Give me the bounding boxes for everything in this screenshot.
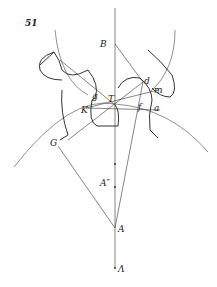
label-a: a <box>154 103 159 113</box>
lower-left-tooth <box>60 90 68 140</box>
line-left-T <box>60 60 115 105</box>
label-B: B <box>99 39 107 49</box>
upper-left-tooth-edge <box>39 52 62 80</box>
label-T: T <box>108 94 115 104</box>
point-lambda <box>114 267 116 269</box>
label-d: d <box>144 76 150 86</box>
point-2 <box>114 186 116 188</box>
label-f: f <box>137 102 143 112</box>
point-1 <box>114 163 116 165</box>
label-A: A <box>117 224 125 234</box>
label-G: G <box>50 138 57 148</box>
pitch-circle-lower <box>14 103 208 167</box>
line-B-d <box>115 44 143 82</box>
label-m: m <box>154 85 163 95</box>
line-K-a <box>86 108 160 110</box>
figure-number: 51 <box>25 18 38 28</box>
label-K: K <box>80 105 89 115</box>
line-G-d <box>68 82 143 140</box>
gear-diagram: 51 B d m g T K f a G A″ A Λ <box>0 0 217 287</box>
pitch-circle-right <box>150 30 175 92</box>
label-A2: A″ <box>99 178 110 188</box>
label-lambda: Λ <box>117 264 125 274</box>
label-g: g <box>92 91 98 101</box>
